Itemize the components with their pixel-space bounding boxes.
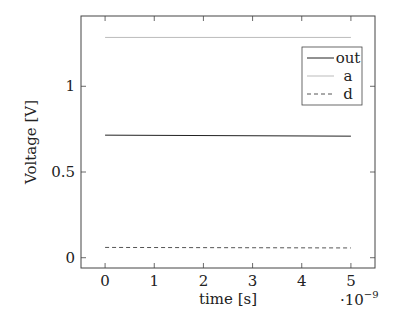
legend: outad <box>302 47 362 105</box>
series-line-d <box>105 247 351 248</box>
x-axis-tick-labels: 012345 <box>100 272 355 290</box>
legend-label-a: a <box>344 67 353 85</box>
y-axis-ticks <box>81 86 375 257</box>
legend-label-out: out <box>336 49 361 67</box>
x-axis-multiplier: ·10−9 <box>340 289 379 309</box>
line-chart: 012345 00.51 time [s] Voltage [V] ·10−9 … <box>0 0 395 328</box>
x-tick-label: 0 <box>100 272 110 290</box>
x-tick-label: 2 <box>199 272 209 290</box>
y-tick-label: 1 <box>65 77 75 95</box>
x-axis-label: time [s] <box>199 290 257 308</box>
x-tick-label: 5 <box>346 272 356 290</box>
y-tick-label: 0 <box>65 249 75 267</box>
series-line-out <box>105 135 351 136</box>
x-tick-label: 4 <box>297 272 307 290</box>
x-tick-label: 3 <box>248 272 258 290</box>
y-axis-tick-labels: 00.51 <box>51 77 75 266</box>
y-axis-label: Voltage [V] <box>22 100 40 185</box>
legend-label-d: d <box>343 85 353 103</box>
x-tick-label: 1 <box>149 272 159 290</box>
y-tick-label: 0.5 <box>51 163 75 181</box>
